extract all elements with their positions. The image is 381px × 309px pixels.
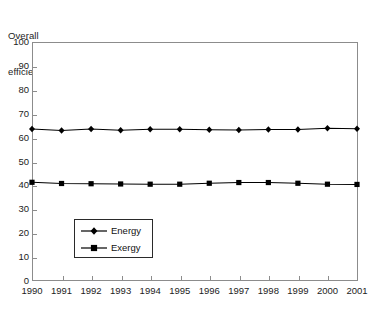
data-point-exergy-1992 bbox=[88, 181, 93, 186]
data-point-exergy-1996 bbox=[207, 181, 212, 186]
series-energy bbox=[29, 125, 360, 134]
chart-figure: Overall efficiency (%) 01020304050607080… bbox=[0, 0, 381, 309]
data-point-energy-1992 bbox=[88, 126, 94, 133]
data-point-exergy-1991 bbox=[59, 181, 64, 186]
data-point-energy-1993 bbox=[118, 127, 124, 134]
y-tick-label-80: 80 bbox=[3, 85, 29, 95]
diamond-marker-icon bbox=[79, 224, 109, 238]
y-tick-label-10: 10 bbox=[3, 252, 29, 262]
legend-label-energy: Energy bbox=[111, 225, 141, 236]
series-line-energy bbox=[32, 128, 357, 130]
data-point-exergy-1995 bbox=[177, 182, 182, 187]
data-point-energy-1997 bbox=[236, 127, 242, 134]
y-axis-tick-labels: 0102030405060708090100 bbox=[0, 42, 29, 281]
y-tick-label-70: 70 bbox=[3, 109, 29, 119]
y-tick-label-90: 90 bbox=[3, 61, 29, 71]
legend-item-exergy: Exergy bbox=[75, 239, 152, 256]
y-tick-label-60: 60 bbox=[3, 133, 29, 143]
x-axis-tick-labels: 1990199119921993199419951996199719981999… bbox=[32, 285, 358, 299]
data-point-exergy-2000 bbox=[325, 182, 330, 187]
data-point-exergy-1999 bbox=[295, 181, 300, 186]
chart-legend: Energy Exergy bbox=[74, 219, 153, 258]
data-point-energy-1990 bbox=[29, 126, 35, 133]
data-point-energy-1991 bbox=[59, 127, 65, 134]
data-point-exergy-1994 bbox=[148, 182, 153, 187]
data-point-exergy-2001 bbox=[354, 182, 359, 187]
data-point-energy-1996 bbox=[206, 126, 212, 133]
y-tick-label-50: 50 bbox=[3, 157, 29, 167]
data-point-energy-1999 bbox=[295, 126, 301, 133]
data-point-energy-2001 bbox=[354, 125, 360, 132]
data-point-energy-1998 bbox=[265, 126, 271, 133]
legend-label-exergy: Exergy bbox=[111, 242, 141, 253]
y-tick-label-100: 100 bbox=[3, 37, 29, 47]
data-point-energy-1995 bbox=[177, 126, 183, 133]
y-tick-label-20: 20 bbox=[3, 228, 29, 238]
legend-item-energy: Energy bbox=[75, 222, 152, 239]
data-point-energy-2000 bbox=[324, 125, 330, 132]
data-point-exergy-1997 bbox=[236, 180, 241, 185]
square-marker-icon bbox=[79, 241, 109, 255]
series-exergy bbox=[29, 180, 359, 187]
data-point-exergy-1993 bbox=[118, 181, 123, 186]
series-line-exergy bbox=[32, 182, 357, 184]
y-tick-label-30: 30 bbox=[3, 204, 29, 214]
y-tick-label-40: 40 bbox=[3, 180, 29, 190]
data-point-exergy-1990 bbox=[29, 180, 34, 185]
x-tick-label-2001: 2001 bbox=[340, 285, 374, 296]
data-point-exergy-1998 bbox=[266, 180, 271, 185]
data-point-energy-1994 bbox=[147, 126, 153, 133]
